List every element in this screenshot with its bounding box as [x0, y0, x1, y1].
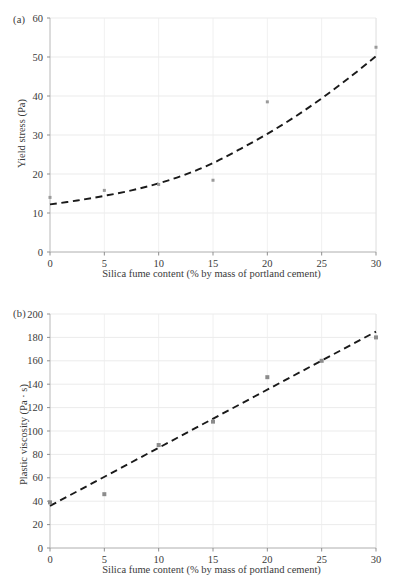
y-tick-label: 20 [33, 519, 44, 530]
y-tick-label: 0 [38, 543, 43, 554]
x-tick-label: 5 [102, 554, 107, 565]
y-tick-label: 50 [33, 52, 44, 63]
y-tick-label: 200 [27, 309, 43, 320]
data-point-marker [266, 100, 269, 103]
x-tick-label: 0 [47, 258, 52, 269]
x-tick-label: 15 [208, 554, 219, 565]
x-tick-label: 10 [153, 554, 164, 565]
y-tick-label: 60 [33, 472, 44, 483]
data-point-marker [49, 196, 52, 199]
x-tick-label: 15 [208, 258, 219, 269]
chart-panel-a: (a) Yield stress (Pa) Silica fume conten… [0, 0, 395, 294]
x-tick-label: 25 [316, 554, 327, 565]
data-point-marker [157, 443, 161, 447]
y-tick-label: 10 [33, 208, 44, 219]
data-point-marker [265, 375, 269, 379]
x-tick-label: 0 [47, 554, 52, 565]
x-tick-label: 10 [153, 258, 164, 269]
y-tick-label: 160 [27, 355, 43, 366]
x-tick-label: 5 [102, 258, 107, 269]
y-tick-label: 40 [33, 496, 44, 507]
x-tick-label: 30 [371, 554, 382, 565]
y-tick-label: 80 [33, 449, 44, 460]
y-tick-label: 40 [33, 91, 44, 102]
y-tick-label: 0 [38, 247, 43, 258]
y-tick-label: 20 [33, 169, 44, 180]
data-point-marker [157, 183, 160, 186]
data-point-marker [102, 492, 106, 496]
x-tick-label: 30 [371, 258, 382, 269]
y-tick-label: 100 [27, 426, 43, 437]
data-point-marker [375, 46, 378, 49]
plot-area-b: 020406080100120140160180200051015202530 [0, 294, 395, 588]
plot-area-a: 0102030405060051015202530 [0, 0, 395, 294]
y-tick-label: 60 [33, 13, 44, 24]
data-point-marker [320, 359, 324, 363]
y-tick-label: 180 [27, 332, 43, 343]
x-tick-label: 25 [316, 258, 327, 269]
y-tick-label: 30 [33, 130, 44, 141]
data-point-marker [212, 179, 215, 182]
chart-panel-b: (b) Plastic viscosity (Pa · s) Silica fu… [0, 294, 395, 588]
data-point-marker [48, 500, 52, 504]
data-point-marker [103, 189, 106, 192]
y-tick-label: 120 [27, 402, 43, 413]
y-tick-label: 140 [27, 379, 43, 390]
data-point-marker [374, 335, 378, 339]
x-tick-label: 20 [262, 554, 273, 565]
x-tick-label: 20 [262, 258, 273, 269]
data-point-marker [211, 420, 215, 424]
